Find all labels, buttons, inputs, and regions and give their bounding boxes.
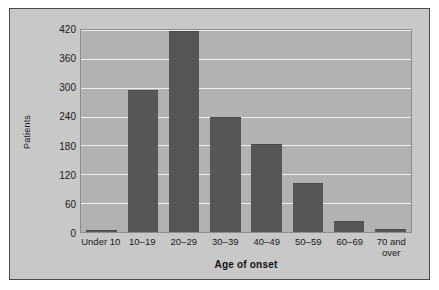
y-tick-label: 300	[40, 82, 76, 93]
chart-figure: Patients 060120180240300360420 Under 101…	[9, 8, 430, 280]
x-tick-label: 30–39	[205, 236, 247, 258]
x-tick-label: Under 10	[80, 236, 122, 258]
y-tick-label: 120	[40, 169, 76, 180]
bar	[169, 31, 200, 232]
y-tick-label: 420	[40, 24, 76, 35]
x-axis-tick-labels: Under 1010–1920–2930–3940–4950–5960–6970…	[80, 236, 412, 258]
y-tick-label: 180	[40, 140, 76, 151]
bar-series	[81, 30, 411, 232]
bar-slot	[164, 30, 205, 232]
bar	[375, 229, 406, 232]
bar	[210, 117, 241, 232]
bar-slot	[81, 30, 122, 232]
x-tick-label: 40–49	[246, 236, 288, 258]
bar-slot	[122, 30, 163, 232]
bar	[334, 221, 365, 232]
bar	[86, 230, 117, 232]
y-tick-label: 0	[40, 228, 76, 239]
x-tick-label: 10–19	[122, 236, 164, 258]
plot-area	[80, 29, 412, 233]
y-axis-title: Patients	[22, 102, 32, 162]
bar-slot	[370, 30, 411, 232]
x-tick-label: 60–69	[329, 236, 371, 258]
bar	[251, 144, 282, 232]
bar	[293, 183, 324, 232]
bar	[128, 90, 159, 232]
bar-slot	[246, 30, 287, 232]
x-tick-label: 50–59	[288, 236, 330, 258]
y-tick-label: 60	[40, 198, 76, 209]
y-tick-label: 360	[40, 53, 76, 64]
y-tick-label: 240	[40, 111, 76, 122]
x-tick-label: 20–29	[163, 236, 205, 258]
bar-slot	[329, 30, 370, 232]
bar-slot	[287, 30, 328, 232]
y-axis-tick-labels: 060120180240300360420	[40, 29, 76, 233]
bar-slot	[205, 30, 246, 232]
x-tick-label: 70 and over	[371, 236, 413, 258]
x-axis-title: Age of onset	[80, 259, 412, 270]
